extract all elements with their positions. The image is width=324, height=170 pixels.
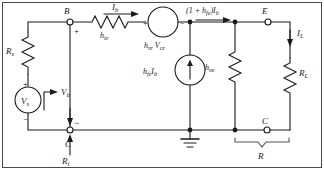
polarity-minus-vs: − — [23, 114, 28, 124]
node-c-terminal-right — [264, 127, 270, 133]
label-bracket-r: R — [257, 151, 264, 161]
label-node-c-left: C — [65, 139, 72, 149]
polarity-plus-hre: + — [143, 19, 148, 28]
circuit-diagram-figure: B E C C Ib (1 + hfe)Ib IL Rs Vs hie — [0, 0, 324, 170]
schematic-canvas: B E C C Ib (1 + hfe)Ib IL Rs Vs hie — [0, 0, 324, 170]
label-node-e: E — [261, 6, 268, 16]
label-node-c-right: C — [262, 116, 269, 126]
polarity-minus-collector: − — [74, 118, 79, 128]
polarity-plus-vs: + — [23, 79, 28, 89]
label-emitter-current: (1 + hfe)Ib — [186, 6, 219, 16]
polarity-plus-base: + — [74, 26, 79, 36]
node-e-terminal — [265, 19, 271, 25]
junction-hoe-bottom — [233, 128, 238, 133]
polarity-minus-hre: − — [180, 19, 185, 28]
figure-border — [3, 3, 322, 168]
label-node-b: B — [64, 6, 70, 16]
node-b-terminal — [67, 19, 73, 25]
node-c-terminal-left — [67, 127, 73, 133]
